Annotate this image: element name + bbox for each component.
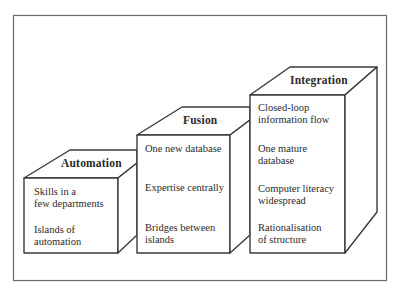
fusion-item: Expertise centrally (145, 182, 224, 194)
integration-item: One mature database (258, 143, 307, 167)
integration-side-face (345, 67, 377, 253)
integration-item: Computer literacy widespread (258, 183, 334, 207)
integration-item: Rationalisation of structure (258, 222, 322, 246)
fusion-title: Fusion (183, 114, 217, 126)
automation-title: Automation (61, 157, 122, 169)
fusion-side-face (230, 120, 250, 253)
integration-title: Integration (290, 74, 348, 86)
automation-side-face (118, 163, 137, 253)
automation-item: Islands of automation (34, 224, 81, 248)
integration-item: Closed-loop information flow (258, 102, 329, 126)
fusion-item: One new database (145, 143, 221, 155)
automation-item: Skills in a few departments (34, 186, 104, 210)
fusion-item: Bridges between islands (145, 222, 215, 246)
diagram-canvas: Automation Fusion Integration Skills in … (0, 0, 400, 293)
